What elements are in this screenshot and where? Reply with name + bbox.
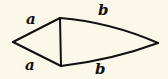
side-upper-left	[13, 18, 60, 42]
side-lower-right	[61, 43, 158, 66]
label-upper-right: b	[98, 3, 109, 18]
label-upper-left: a	[26, 12, 36, 27]
diagonal	[60, 18, 61, 66]
label-lower-right: b	[95, 62, 106, 77]
label-lower-left: a	[25, 58, 35, 73]
kite-diagram: a a b b	[0, 0, 168, 79]
side-lower-left	[13, 42, 61, 66]
side-upper-right	[60, 18, 158, 43]
